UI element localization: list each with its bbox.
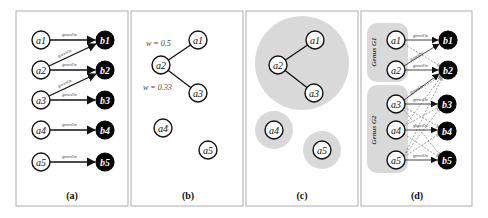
source-node: a1 — [387, 31, 405, 49]
node: a3 — [189, 84, 207, 102]
svg-text:b2: b2 — [443, 65, 453, 76]
source-node: a1 — [32, 31, 50, 49]
node: a1 — [306, 31, 324, 49]
target-node: b1 — [96, 31, 114, 49]
genus-g1-label: Genus G1 — [370, 38, 378, 67]
panel-b: w = 0.5 w = 0.33 a1 a2 a3 a4 a5 (b) — [143, 31, 217, 202]
source-node: a2 — [387, 61, 405, 79]
caption-d: (d) — [411, 190, 423, 202]
svg-text:a4: a4 — [391, 125, 401, 136]
node: a2 — [152, 56, 170, 74]
svg-text:a2: a2 — [36, 65, 46, 76]
weight-label: w = 0.5 — [146, 39, 171, 48]
svg-text:a3: a3 — [36, 95, 46, 106]
panel-c: a1 a2 a3 a4 a5 (c) — [255, 16, 349, 202]
panel-a: growsOn growsOn growsOn growsOn growsOn … — [32, 31, 114, 202]
svg-text:b3: b3 — [442, 99, 452, 110]
edge-label: growsOn — [413, 63, 428, 68]
svg-text:a5: a5 — [317, 145, 327, 156]
svg-text:a5: a5 — [391, 155, 401, 166]
node: a4 — [154, 119, 172, 137]
svg-text:a1: a1 — [193, 35, 203, 46]
edge-label: growsOn — [62, 32, 77, 37]
source-node: a3 — [387, 95, 405, 113]
panel-d: Genus G1 Genus G2 growsOn growsOn growsO… — [367, 23, 457, 202]
svg-text:a1: a1 — [310, 35, 320, 46]
target-node: b4 — [438, 122, 456, 140]
source-node: a3 — [32, 91, 50, 109]
svg-text:a2: a2 — [391, 65, 401, 76]
svg-text:b1: b1 — [443, 35, 453, 46]
svg-text:a3: a3 — [193, 88, 203, 99]
weight-label: w = 0.33 — [143, 83, 172, 92]
svg-text:a4: a4 — [269, 125, 279, 136]
source-node: a5 — [32, 153, 50, 171]
caption-a: (a) — [66, 190, 78, 202]
node: a1 — [189, 31, 207, 49]
svg-text:b1: b1 — [100, 35, 110, 46]
node: a5 — [313, 141, 331, 159]
target-node: b2 — [439, 61, 457, 79]
edge-label: growsOn — [413, 33, 428, 38]
target-node: b1 — [439, 31, 457, 49]
svg-text:b5: b5 — [442, 155, 452, 166]
node: a4 — [265, 121, 283, 139]
node: a5 — [199, 141, 217, 159]
source-node: a5 — [387, 151, 405, 169]
caption-b: (b) — [182, 190, 194, 202]
svg-text:a1: a1 — [36, 35, 46, 46]
target-node: b2 — [96, 61, 114, 79]
target-node: b3 — [438, 95, 456, 113]
target-node: b3 — [96, 91, 114, 109]
edge-label: growsOn — [413, 153, 428, 158]
target-node: b5 — [96, 153, 114, 171]
svg-text:a4: a4 — [36, 125, 46, 136]
target-node: b4 — [96, 121, 114, 139]
edge-label: growsOn — [62, 62, 77, 67]
source-node: a4 — [387, 121, 405, 139]
edge-label: growsOn — [62, 122, 77, 127]
svg-text:b4: b4 — [442, 126, 452, 137]
node: a2 — [269, 56, 287, 74]
source-node: a4 — [32, 121, 50, 139]
source-node: a2 — [32, 61, 50, 79]
svg-text:b2: b2 — [100, 65, 110, 76]
svg-text:a5: a5 — [203, 145, 213, 156]
target-node: b5 — [438, 151, 456, 169]
svg-text:a2: a2 — [156, 60, 166, 71]
edge-label: growsOn — [413, 123, 428, 128]
svg-text:a5: a5 — [36, 157, 46, 168]
svg-text:a2: a2 — [273, 60, 283, 71]
genus-g2-label: Genus G2 — [370, 115, 378, 144]
node: a3 — [305, 84, 323, 102]
edge-label: growsOn — [409, 83, 424, 95]
svg-text:a1: a1 — [391, 35, 401, 46]
svg-text:a3: a3 — [391, 99, 401, 110]
svg-text:a3: a3 — [309, 88, 319, 99]
figure: growsOn growsOn growsOn growsOn growsOn … — [0, 0, 488, 218]
edge-label: growsOn — [62, 92, 77, 97]
svg-text:b5: b5 — [100, 157, 110, 168]
caption-c: (c) — [296, 190, 307, 202]
edge-label: growsOn — [62, 154, 77, 159]
edge-label: growsOn — [413, 97, 428, 102]
svg-text:a4: a4 — [158, 123, 168, 134]
svg-text:b4: b4 — [100, 125, 110, 136]
svg-text:b3: b3 — [100, 95, 110, 106]
